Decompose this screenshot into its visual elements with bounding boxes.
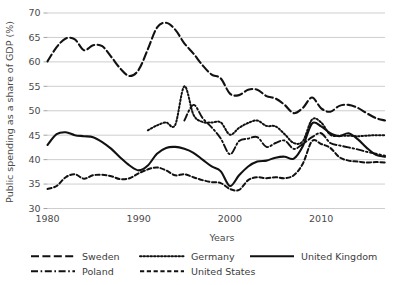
y-axis-ticks: 303540455055606570	[28, 7, 47, 214]
series-lines	[48, 23, 386, 191]
y-tick-label: 35	[28, 178, 40, 189]
legend-label: Germany	[191, 251, 235, 262]
chart-container: 303540455055606570 1980199020002010 Publ…	[0, 0, 410, 285]
legend-label: United States	[191, 266, 255, 277]
y-tick-label: 70	[28, 7, 40, 18]
series-line-united-kingdom	[48, 122, 386, 186]
y-tick-label: 45	[28, 130, 40, 141]
legend-item-sweden[interactable]: Sweden	[31, 251, 120, 262]
legend-label: Poland	[82, 266, 114, 277]
legend-label: Sweden	[82, 251, 120, 262]
series-line-poland	[184, 105, 385, 156]
legend-item-united-states[interactable]: United States	[140, 266, 255, 277]
x-tick-label: 1990	[127, 213, 151, 224]
y-tick-label: 60	[28, 56, 40, 67]
line-chart: 303540455055606570 1980199020002010 Publ…	[0, 0, 410, 285]
y-tick-label: 65	[28, 32, 40, 43]
y-tick-label: 40	[28, 154, 40, 165]
x-tick-label: 2000	[218, 213, 242, 224]
x-tick-label: 1980	[35, 213, 59, 224]
legend-item-germany[interactable]: Germany	[140, 251, 235, 262]
y-tick-label: 55	[28, 81, 40, 92]
legend-item-poland[interactable]: Poland	[31, 266, 114, 277]
x-axis-label: Years	[208, 232, 234, 243]
legend: SwedenGermanyUnited KingdomPolandUnited …	[31, 251, 377, 277]
y-tick-label: 50	[28, 105, 40, 116]
series-line-united-states	[48, 140, 386, 191]
x-axis-ticks: 1980199020002010	[35, 213, 333, 224]
x-tick-label: 2010	[309, 213, 333, 224]
y-axis-label: Public spending as a share of GDP (%)	[4, 21, 15, 203]
legend-item-united-kingdom[interactable]: United Kingdom	[250, 251, 377, 262]
legend-label: United Kingdom	[301, 251, 377, 262]
